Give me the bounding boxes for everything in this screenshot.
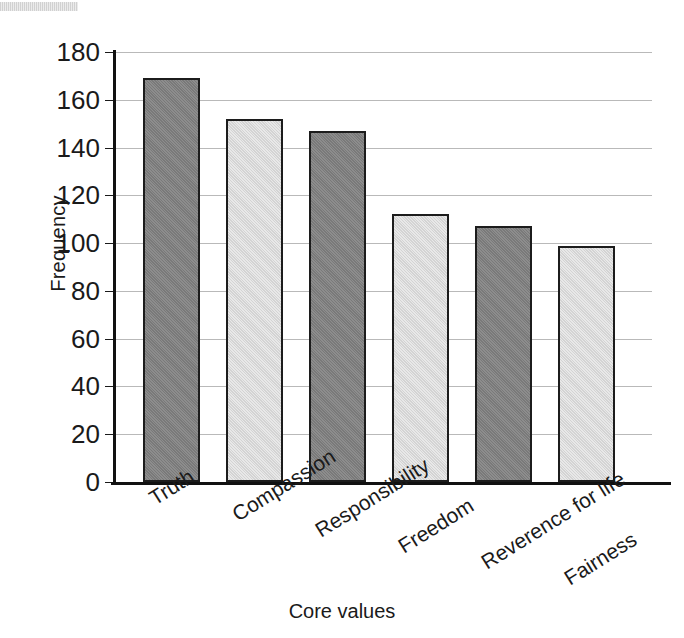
- y-axis-tick-label: 20: [38, 421, 100, 447]
- bar: [475, 226, 532, 482]
- y-axis-tick-label: 100: [38, 230, 100, 256]
- x-axis-tick-label: Fairness: [560, 527, 641, 590]
- y-axis-tick-labels: 180160140120100806040200: [38, 0, 100, 638]
- bar: [558, 246, 615, 483]
- x-axis-tick-labels: TruthCompassionResponsibilityFreedomReve…: [113, 486, 673, 596]
- y-axis-tick-label: 0: [38, 469, 100, 495]
- bar: [392, 214, 449, 482]
- bar: [226, 119, 283, 482]
- plot-area: [113, 40, 653, 484]
- y-axis-tick-label: 80: [38, 278, 100, 304]
- y-axis-tick-label: 60: [38, 326, 100, 352]
- y-axis-tick-label: 180: [38, 39, 100, 65]
- y-axis-tick-label: 160: [38, 87, 100, 113]
- x-axis-title: Core values: [0, 600, 684, 623]
- y-axis-tick-label: 40: [38, 373, 100, 399]
- bar-chart-figure: Frequency 180160140120100806040200 Truth…: [0, 0, 684, 638]
- y-axis-tick-label: 120: [38, 182, 100, 208]
- bar: [143, 78, 200, 482]
- bar-series: [113, 40, 653, 484]
- x-axis-tick-label: Freedom: [394, 493, 478, 558]
- bar: [309, 131, 366, 482]
- y-axis-tick-label: 140: [38, 135, 100, 161]
